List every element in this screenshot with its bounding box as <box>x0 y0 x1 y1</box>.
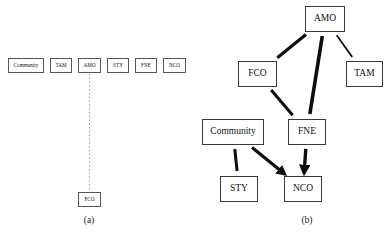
node-fne-b[interactable]: FNE <box>288 119 326 145</box>
panel-a: Community TAM AMO STY FNE NCO FCO (a) <box>0 0 195 240</box>
panel-b: AMO FCO TAM Community FNE STY NCO (b) <box>195 0 390 240</box>
node-label: FNE <box>298 127 316 137</box>
node-label: STY <box>230 184 248 194</box>
node-community-a[interactable]: Community <box>8 58 44 73</box>
node-label: AMO <box>83 63 95 68</box>
node-label: FCO <box>248 69 266 79</box>
edge-fco-fne <box>271 90 292 115</box>
edge-amo-tam <box>337 35 353 57</box>
node-label: FCO <box>84 197 94 202</box>
node-label: NCO <box>293 184 313 194</box>
node-nco-b[interactable]: NCO <box>284 176 322 202</box>
edge-amo-fco <box>277 35 306 58</box>
caption-b: (b) <box>287 215 327 225</box>
node-label: AMO <box>314 14 336 24</box>
node-tam-a[interactable]: TAM <box>50 58 72 73</box>
node-label: STY <box>113 63 123 68</box>
edge-community-sty <box>235 149 237 171</box>
node-label: FNE <box>141 63 151 68</box>
node-label: Community <box>14 63 39 68</box>
node-sty-a[interactable]: STY <box>107 58 129 73</box>
figure-container: Community TAM AMO STY FNE NCO FCO (a) <box>0 0 390 240</box>
edge-fne-nco <box>304 149 306 173</box>
node-fco-b[interactable]: FCO <box>238 61 277 87</box>
node-fco-a[interactable]: FCO <box>78 192 101 207</box>
edge-amo-fne <box>310 36 322 114</box>
node-tam-b[interactable]: TAM <box>346 61 383 87</box>
node-sty-b[interactable]: STY <box>220 176 258 202</box>
node-label: Community <box>210 127 255 137</box>
node-fne-a[interactable]: FNE <box>135 58 157 73</box>
node-community-b[interactable]: Community <box>202 119 264 145</box>
node-amo-b[interactable]: AMO <box>305 6 345 32</box>
node-amo-a[interactable]: AMO <box>78 58 101 73</box>
node-label: TAM <box>55 63 66 68</box>
caption-a: (a) <box>69 215 109 225</box>
edge-community-nco <box>252 148 285 175</box>
node-label: NCO <box>169 63 180 68</box>
node-label: TAM <box>354 69 374 79</box>
node-nco-a[interactable]: NCO <box>163 58 186 73</box>
